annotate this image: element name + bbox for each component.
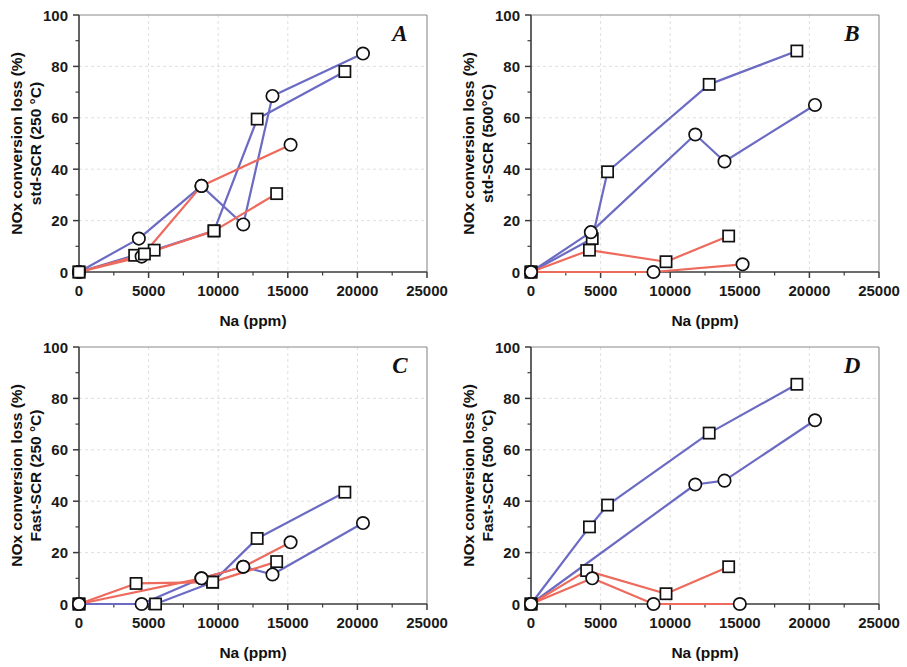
panel-C: 0500010000150002000025000020406080100Na … [0, 332, 453, 665]
series-lines [531, 384, 815, 604]
data-point-square [207, 577, 218, 588]
y-tick-label: 0 [512, 596, 520, 613]
svg-text:NOx conversion loss (%): NOx conversion loss (%) [8, 52, 25, 235]
y-tick-label: 0 [60, 264, 68, 281]
y-tick-label: 20 [503, 212, 520, 229]
x-tick-label: 25000 [406, 614, 448, 631]
data-point-square [723, 230, 734, 241]
x-tick-label: 20000 [337, 614, 379, 631]
y-axis-title: NOx conversion loss (%)Fast-SCR (250 °C) [8, 384, 44, 567]
y-tick-label: 60 [503, 109, 520, 126]
x-tick-label: 5000 [132, 282, 165, 299]
data-point-circle [357, 47, 369, 59]
y-tick-label: 20 [51, 212, 68, 229]
data-point-square [271, 188, 282, 199]
data-point-square [602, 166, 613, 177]
y-tick-label: 40 [51, 161, 68, 178]
x-tick-label: 10000 [649, 614, 691, 631]
x-tick-label: 20000 [789, 282, 831, 299]
series-lines [531, 51, 815, 272]
y-tick-label: 60 [51, 441, 68, 458]
panel-letter: B [843, 21, 859, 46]
series-line-red-square [531, 567, 729, 604]
y-tick-label: 0 [60, 596, 68, 613]
x-tick-label: 20000 [337, 282, 379, 299]
y-tick-label: 40 [503, 161, 520, 178]
data-point-circle [525, 598, 537, 610]
series-line-red-circle [79, 145, 291, 272]
data-point-square [271, 556, 282, 567]
series-line-blue-circle [79, 54, 363, 272]
data-point-circle [135, 598, 147, 610]
series-lines [79, 492, 363, 604]
svg-text:NOx conversion loss (%): NOx conversion loss (%) [460, 52, 477, 235]
series-line-blue-circle [79, 523, 363, 604]
data-point-circle [718, 474, 730, 486]
data-point-circle [284, 536, 296, 548]
data-point-circle [718, 155, 730, 167]
y-tick-label: 80 [503, 58, 520, 75]
series-markers [73, 487, 369, 611]
series-line-red-square [531, 236, 729, 272]
y-tick-label: 100 [43, 339, 68, 356]
data-point-circle [525, 266, 537, 278]
svg-text:Fast-SCR (250 °C): Fast-SCR (250 °C) [27, 410, 44, 542]
y-tick-label: 100 [495, 339, 520, 356]
y-tick-label: 60 [51, 109, 68, 126]
tick-labels: 0500010000150002000025000020406080100 [43, 7, 448, 300]
series-line-blue-circle [531, 105, 815, 272]
gridlines [79, 347, 427, 604]
data-point-circle [133, 232, 145, 244]
data-point-circle [284, 139, 296, 151]
data-point-square [704, 427, 715, 438]
y-tick-label: 20 [503, 544, 520, 561]
x-tick-label: 15000 [267, 282, 309, 299]
data-point-square [660, 256, 671, 267]
data-point-square [150, 598, 161, 609]
plot-area-A: 0500010000150002000025000020406080100Na … [0, 0, 453, 333]
y-axis-title: NOx conversion loss (%)std-SCR (250 °C) [8, 52, 44, 235]
data-point-square [130, 578, 141, 589]
series-line-red-circle [79, 542, 291, 604]
y-tick-label: 100 [43, 7, 68, 24]
series-line-blue-square [531, 51, 797, 272]
data-point-square [791, 45, 802, 56]
x-tick-label: 15000 [719, 282, 761, 299]
x-tick-label: 20000 [789, 614, 831, 631]
data-point-circle [647, 266, 659, 278]
data-point-square [252, 533, 263, 544]
tick-labels: 0500010000150002000025000020406080100 [43, 339, 448, 632]
y-tick-label: 80 [503, 390, 520, 407]
x-tick-label: 10000 [197, 282, 239, 299]
x-axis-title: Na (ppm) [219, 312, 286, 329]
data-point-circle [689, 128, 701, 140]
data-point-circle [689, 478, 701, 490]
data-point-circle [809, 99, 821, 111]
data-point-circle [647, 598, 659, 610]
panel-letter: C [392, 353, 408, 378]
y-tick-label: 40 [503, 493, 520, 510]
data-point-circle [237, 218, 249, 230]
plot-area-C: 0500010000150002000025000020406080100Na … [0, 332, 453, 665]
x-tick-label: 15000 [719, 614, 761, 631]
x-tick-label: 10000 [197, 614, 239, 631]
svg-text:std-SCR (500°C): std-SCR (500°C) [479, 84, 496, 203]
x-axis-title: Na (ppm) [219, 644, 286, 661]
y-tick-label: 20 [51, 544, 68, 561]
data-point-circle [266, 90, 278, 102]
data-point-circle [586, 572, 598, 584]
y-axis-title: NOx conversion loss (%)Fast-SCR (500 °C) [460, 384, 496, 567]
data-point-circle [736, 258, 748, 270]
data-point-square [704, 79, 715, 90]
axis-ticks [73, 15, 427, 278]
data-point-square [73, 266, 84, 277]
y-axis-title: NOx conversion loss (%)std-SCR (500°C) [460, 52, 496, 235]
panel-B: 0500010000150002000025000020406080100Na … [452, 0, 905, 333]
x-tick-label: 0 [75, 614, 83, 631]
gridlines [79, 15, 427, 272]
data-point-circle [195, 180, 207, 192]
data-point-circle [357, 517, 369, 529]
x-tick-label: 5000 [584, 282, 617, 299]
data-point-circle [237, 561, 249, 573]
x-tick-label: 25000 [406, 282, 448, 299]
